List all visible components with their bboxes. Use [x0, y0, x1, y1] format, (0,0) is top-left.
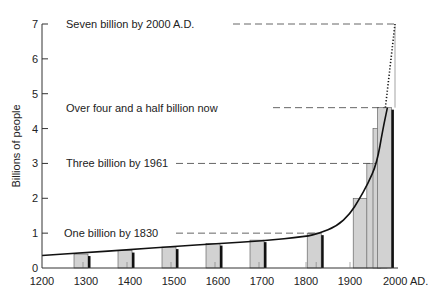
annotation-label: Three billion by 1961: [66, 157, 168, 169]
annotation-label: Seven billion by 2000 A.D.: [66, 18, 194, 30]
bar-1985: [377, 108, 391, 268]
bar-shadow-1500: [176, 249, 179, 268]
x-tick-label: 1900: [338, 275, 362, 287]
bar-shadow-1400: [132, 253, 135, 268]
bar-shadow-1300: [88, 256, 91, 268]
x-tick-label: 1700: [250, 275, 274, 287]
x-tick-label: 1200: [30, 275, 54, 287]
bar-shadow-1985: [391, 110, 394, 268]
y-tick-label: 3: [32, 157, 38, 169]
population-chart: Seven billion by 2000 A.D.Over four and …: [0, 0, 435, 305]
bar-1400: [118, 251, 132, 268]
bar-1500: [162, 247, 176, 268]
x-tick-label: 1500: [162, 275, 186, 287]
y-tick-label: 6: [32, 53, 38, 65]
projection-dotted-line: [385, 24, 395, 108]
bar-1300: [74, 254, 88, 268]
bar-1930: [353, 198, 367, 268]
y-tick-label: 5: [32, 88, 38, 100]
growth-curve-group: [42, 24, 395, 255]
x-tick-label: 1400: [118, 275, 142, 287]
x-tick-label: 1300: [74, 275, 98, 287]
y-tick-label: 1: [32, 227, 38, 239]
y-tick-label: 0: [32, 262, 38, 274]
x-tick-label: 1800: [294, 275, 318, 287]
x-tick-label: 1600: [206, 275, 230, 287]
bar-shadow-1600: [220, 246, 223, 268]
bar-1600: [206, 244, 220, 268]
bars-group: [74, 108, 394, 268]
bar-shadow-1830: [321, 235, 324, 268]
bar-shadow-1700: [264, 242, 267, 268]
bar-1830: [307, 233, 321, 268]
y-axis-label: Billions of people: [10, 104, 22, 187]
annotation-label: Over four and a half billion now: [66, 102, 218, 114]
annotations-group: Seven billion by 2000 A.D.Over four and …: [64, 18, 395, 239]
y-tick-label: 4: [32, 123, 38, 135]
bar-1700: [250, 240, 264, 268]
x-tick-label: 2000 AD.: [383, 275, 428, 287]
y-tick-label: 2: [32, 192, 38, 204]
annotation-label: One billion by 1830: [64, 227, 158, 239]
y-tick-label: 7: [32, 18, 38, 30]
